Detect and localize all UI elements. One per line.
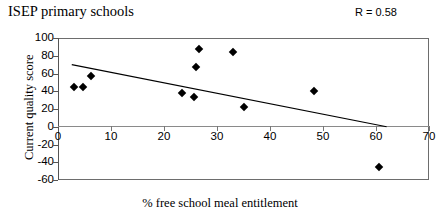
y-tick-label: -40 <box>20 156 54 168</box>
x-tick-label: 40 <box>255 131 285 143</box>
y-tick-label: 60 <box>20 68 54 80</box>
y-axis-ticks: 100806040200-20-40-60 <box>14 0 54 218</box>
x-tick-label: 20 <box>149 131 179 143</box>
x-tick-mark <box>164 126 165 131</box>
y-tick-label: 100 <box>20 32 54 44</box>
y-axis-line <box>58 38 59 180</box>
y-tick-mark <box>53 109 58 110</box>
y-tick-mark <box>53 38 58 39</box>
y-tick-mark <box>53 162 58 163</box>
x-tick-mark <box>429 126 430 131</box>
x-tick-label: 70 <box>414 131 440 143</box>
x-tick-mark <box>111 126 112 131</box>
x-tick-mark <box>270 126 271 131</box>
x-tick-label: 60 <box>361 131 391 143</box>
y-tick-label: -60 <box>20 174 54 186</box>
y-tick-mark <box>53 56 58 57</box>
x-axis-title: % free school meal entitlement <box>0 196 440 211</box>
y-tick-mark <box>53 127 58 128</box>
correlation-annotation: R = 0.58 <box>355 6 397 18</box>
y-tick-mark <box>53 74 58 75</box>
x-tick-label: 30 <box>202 131 232 143</box>
x-tick-label: 0 <box>43 131 73 143</box>
y-tick-label: 20 <box>20 103 54 115</box>
y-tick-mark <box>53 145 58 146</box>
x-tick-label: 10 <box>96 131 126 143</box>
zero-baseline <box>58 126 429 127</box>
x-tick-label: 50 <box>308 131 338 143</box>
y-tick-label: 40 <box>20 85 54 97</box>
x-tick-mark <box>323 126 324 131</box>
x-tick-mark <box>376 126 377 131</box>
chart-figure: ISEP primary schools R = 0.58 Current qu… <box>0 0 440 218</box>
y-tick-label: 80 <box>20 50 54 62</box>
y-tick-mark <box>53 180 58 181</box>
x-tick-mark <box>217 126 218 131</box>
y-tick-mark <box>53 91 58 92</box>
